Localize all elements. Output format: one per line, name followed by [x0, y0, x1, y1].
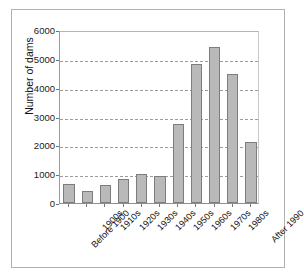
y-axis-tick-label: 1000 [34, 170, 55, 180]
x-axis-tick-labels: Before 19001900s1910s1920s1930s1940s1950… [59, 204, 259, 274]
bar [227, 74, 238, 203]
y-axis-tick-label: 6000 [34, 26, 55, 36]
bar [191, 64, 202, 203]
x-axis-tick-mark [104, 204, 105, 207]
x-axis-tick-mark [123, 204, 124, 207]
y-axis-tick-label: 4000 [34, 84, 55, 94]
x-axis-tick-mark [141, 204, 142, 207]
bar [173, 124, 184, 203]
bar [82, 191, 93, 203]
y-axis-tick-label: 0 [50, 199, 55, 209]
bar [118, 179, 129, 204]
bar [209, 47, 220, 203]
x-axis-tick-label: After 1990 [269, 208, 298, 244]
x-axis-tick-mark [159, 204, 160, 207]
gridline [60, 61, 258, 62]
x-axis-tick-mark [250, 204, 251, 207]
bar [100, 185, 111, 203]
bar [136, 174, 147, 203]
y-axis-tick-label: 5000 [34, 55, 55, 65]
y-axis-tick-labels: 0100020003000400050006000 [12, 31, 55, 204]
x-axis-tick-mark [177, 204, 178, 207]
bar [245, 142, 256, 203]
x-axis-tick-mark [86, 204, 87, 207]
plot-area [59, 31, 259, 204]
figure-frame: Number of dams 0100020003000400050006000… [11, 9, 285, 268]
x-axis-tick-mark [68, 204, 69, 207]
bar [154, 176, 165, 203]
y-axis-tick-label: 2000 [34, 141, 55, 151]
x-axis-tick-mark [195, 204, 196, 207]
x-axis-tick-mark [214, 204, 215, 207]
x-axis-tick-mark [232, 204, 233, 207]
bar [63, 184, 74, 203]
y-axis-tick-label: 3000 [34, 113, 55, 123]
